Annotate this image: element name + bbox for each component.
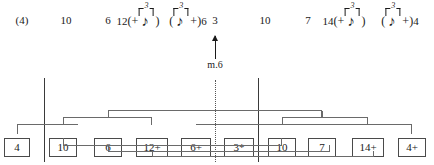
bracket-left-leg — [17, 124, 18, 134]
interval-item: 7 — [305, 12, 311, 27]
eighth-note-with-triplet: 3♪ — [138, 13, 155, 28]
interval-item: (3♪+)4 — [381, 12, 418, 28]
bracket-stem — [322, 111, 323, 117]
eighth-note-icon: ♪ — [347, 14, 355, 29]
interval-number: 6 — [105, 13, 111, 27]
arrow-label: m.6 — [207, 59, 222, 71]
lower-bracket-outer — [152, 151, 374, 156]
triplet-number: 3 — [390, 2, 396, 10]
figure-close-paren: ) — [155, 14, 159, 28]
lower-bracket-inner — [63, 138, 282, 145]
interval-number: 6 — [201, 14, 207, 28]
interval-number: (4) — [16, 13, 29, 27]
interval-item: (4) — [16, 12, 29, 27]
triplet-figure: (3♪+)4 — [381, 12, 418, 28]
bracket-horizontal — [63, 117, 152, 118]
bracket-right-leg — [281, 138, 282, 145]
figure-close-paren: ) — [361, 14, 365, 28]
figure-close-paren: +) — [190, 14, 201, 28]
bracket-left-leg — [108, 110, 109, 117]
bracket-right-leg — [151, 117, 152, 125]
interval-number: 10 — [260, 13, 271, 27]
bracket-horizontal — [108, 110, 322, 111]
eighth-note-with-triplet: 3♪ — [385, 13, 402, 28]
figure-open-paren: (+ — [334, 14, 345, 28]
interval-number: 10 — [61, 13, 72, 27]
triplet-number: 3 — [178, 2, 184, 10]
interval-item: 3 — [212, 12, 218, 27]
diagram-canvas: (4)10612(+3♪)(3♪+)6310714(+3♪)(3♪+)4 m.6… — [0, 0, 434, 165]
figure-close-paren: +) — [402, 14, 413, 28]
arrow-shaft — [215, 36, 216, 59]
interval-item: 14(+3♪) — [323, 12, 366, 28]
triplet-figure: (3♪+)6 — [169, 12, 206, 28]
interval-series-row: (4)10612(+3♪)(3♪+)6310714(+3♪)(3♪+)4 — [0, 12, 434, 36]
bracket-horizontal — [17, 124, 78, 125]
bracket-left-leg — [63, 138, 64, 145]
interval-number: 14 — [323, 14, 334, 28]
interval-item: 6 — [105, 12, 111, 27]
value-box[interactable]: 4 — [4, 138, 30, 157]
interval-item: (3♪+)6 — [169, 12, 206, 28]
bracket-horizontal — [282, 117, 368, 118]
eighth-note-with-triplet: 3♪ — [173, 13, 190, 28]
triplet-number: 3 — [143, 2, 149, 10]
bracket-horizontal — [196, 124, 412, 125]
interval-number: 4 — [413, 14, 419, 28]
figure-open-paren: (+ — [128, 14, 139, 28]
bracket-right-leg — [411, 124, 412, 134]
interval-item: 10 — [260, 12, 271, 27]
eighth-note-icon: ♪ — [388, 14, 396, 29]
bracket-left-leg — [63, 117, 64, 125]
interval-number: 12 — [117, 14, 128, 28]
triplet-figure: 12(+3♪) — [117, 12, 160, 28]
eighth-note-icon: ♪ — [141, 14, 149, 29]
value-box[interactable]: 4+ — [398, 138, 426, 157]
eighth-note-with-triplet: 3♪ — [344, 13, 361, 28]
interval-item: 10 — [61, 12, 72, 27]
triplet-number: 3 — [349, 2, 355, 10]
interval-number: 7 — [305, 13, 311, 27]
bracket-horizontal — [152, 156, 374, 157]
eighth-note-icon: ♪ — [176, 14, 184, 29]
triplet-figure: 14(+3♪) — [323, 12, 366, 28]
interval-item: 12(+3♪) — [117, 12, 160, 28]
interval-number: 3 — [212, 13, 218, 27]
